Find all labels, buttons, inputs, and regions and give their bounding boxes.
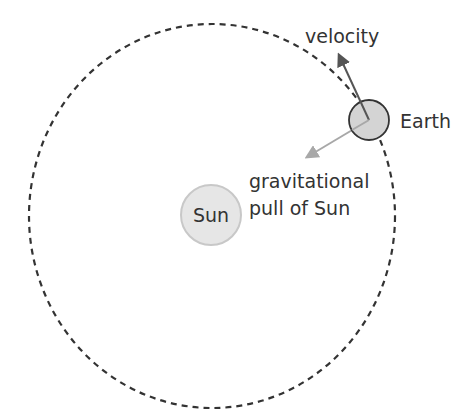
- sun: Sun: [181, 185, 241, 245]
- velocity-label: velocity: [305, 25, 379, 47]
- gravity-label-line-2: pull of Sun: [249, 197, 350, 219]
- gravity-label-line-1: gravitational: [249, 170, 369, 192]
- orbit-diagram: Sun Earth velocity gravitational pull of…: [0, 0, 475, 419]
- earth-label: Earth: [400, 110, 451, 132]
- earth: Earth: [349, 100, 451, 140]
- sun-label: Sun: [193, 204, 229, 226]
